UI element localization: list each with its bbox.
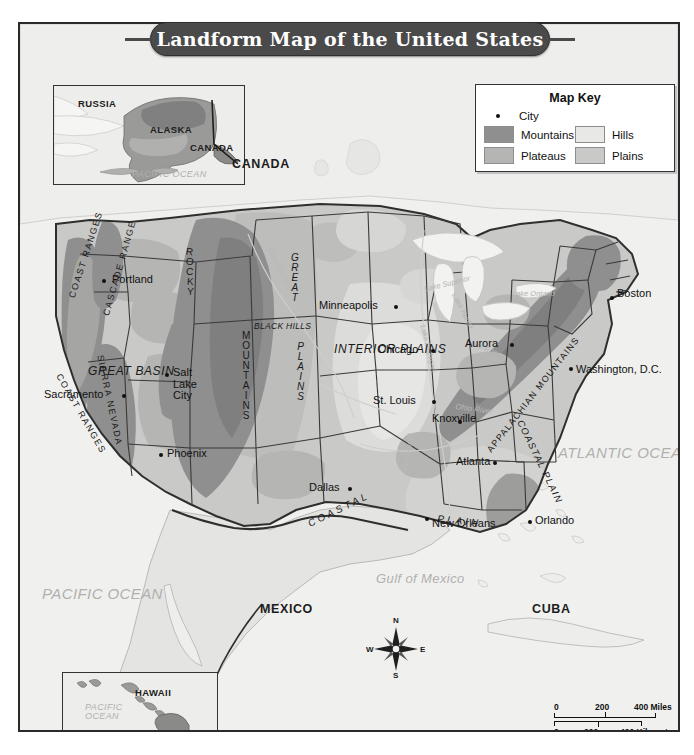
scale-miles-numbers: 0 200 400 Miles — [554, 702, 680, 713]
map-key-entry-hills: Hills — [575, 126, 666, 143]
compass-label-north: N — [393, 616, 399, 625]
city-point-new-orleans — [425, 517, 429, 521]
map-title: Landform Map of the United States — [157, 28, 544, 50]
map-frame: RUSSIA ALASKA CANADA PACIFIC OCEAN HAWAI… — [18, 22, 680, 732]
scale-bar: 0 200 400 Miles 0 200 400 Kilometers — [554, 702, 680, 732]
compass-label-east: E — [420, 645, 425, 654]
scale-km-end: 400 Kilometers — [620, 727, 680, 732]
map-key-entry-mountains: Mountains — [484, 126, 575, 143]
city-point-chicago — [431, 349, 435, 353]
map-key-label-hills: Hills — [612, 129, 634, 141]
scale-miles-zero: 0 — [554, 702, 559, 712]
scale-miles-end: 400 Miles — [634, 702, 672, 712]
hawaii-inset: HAWAII PACIFICOCEAN — [62, 672, 218, 732]
compass-rose: N E S W — [365, 616, 427, 680]
swatch-plains — [575, 147, 605, 164]
city-point-salt-lake-city — [165, 373, 169, 377]
map-key-entry-plains: Plains — [575, 147, 666, 164]
map-key-entry-plateaus: Plateaus — [484, 147, 575, 164]
city-dot-icon — [484, 114, 512, 118]
scale-km-mid: 200 — [584, 727, 598, 732]
map-key-title: Map Key — [484, 91, 666, 105]
scale-kilometers-line — [554, 721, 642, 726]
title-bar-left — [125, 38, 151, 41]
map-page: RUSSIA ALASKA CANADA PACIFIC OCEAN HAWAI… — [0, 0, 694, 755]
city-point-aurora — [510, 343, 514, 347]
city-point-dallas — [348, 487, 352, 491]
swatch-plateaus — [484, 147, 514, 164]
city-point-boston — [610, 296, 614, 300]
swatch-hills — [575, 126, 605, 143]
map-key-row-2: Plateaus Plains — [484, 147, 666, 164]
swatch-mountains — [484, 126, 514, 143]
scale-kilometers-numbers: 0 200 400 Kilometers — [554, 727, 680, 732]
map-key-row-city: City — [484, 110, 666, 122]
map-key-label-plateaus: Plateaus — [521, 150, 566, 162]
scale-miles-line — [554, 713, 656, 718]
city-point-atlanta — [493, 461, 497, 465]
map-key-label-plains: Plains — [612, 150, 643, 162]
alaska-inset: RUSSIA ALASKA CANADA PACIFIC OCEAN — [53, 85, 245, 185]
city-point-orlando — [528, 520, 532, 524]
compass-label-west: W — [366, 645, 374, 654]
map-title-banner: Landform Map of the United States — [150, 22, 550, 56]
city-point-washington-dc — [569, 367, 573, 371]
map-key-row-1: Mountains Hills — [484, 126, 666, 143]
city-point-knoxville — [458, 420, 462, 424]
map-key-label-mountains: Mountains — [521, 129, 574, 141]
city-point-sacramento — [122, 394, 126, 398]
city-point-phoenix — [159, 453, 163, 457]
map-key-entry-city: City — [484, 110, 575, 122]
title-bar-right — [549, 38, 575, 41]
city-point-portland — [102, 279, 106, 283]
scale-km-zero: 0 — [554, 727, 559, 732]
city-point-minneapolis — [394, 305, 398, 309]
compass-label-south: S — [393, 671, 398, 680]
map-key: Map Key City Mountains Hills — [475, 84, 675, 172]
city-point-st-louis — [432, 400, 436, 404]
scale-miles-mid: 200 — [595, 702, 609, 712]
map-key-label-city: City — [519, 110, 539, 122]
